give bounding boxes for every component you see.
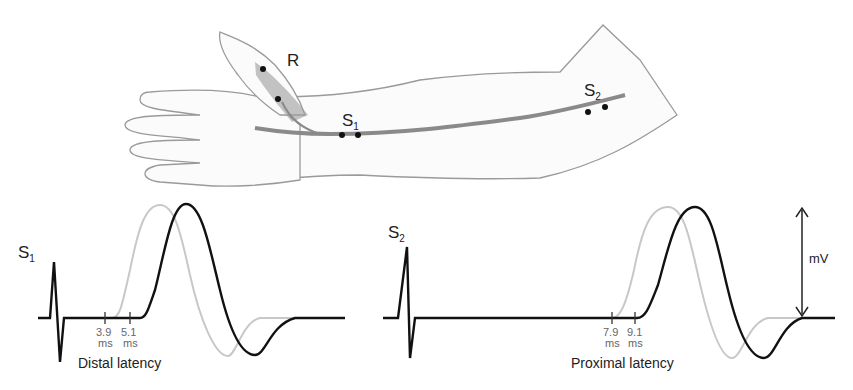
recording-electrode-1: [260, 66, 266, 72]
proximal-trace-panel: S2 7.9 ms 9.1 ms Proximal latency mV: [383, 207, 835, 371]
proximal-tick1-unit: ms: [605, 337, 620, 349]
distal-tick2-unit: ms: [123, 337, 138, 349]
recording-electrode-2: [275, 96, 281, 102]
stim2-electrode-2: [602, 104, 608, 110]
amplitude-label: mV: [809, 251, 829, 266]
stim1-electrode-2: [355, 132, 361, 138]
proximal-stim-label: S2: [388, 223, 405, 244]
normal-response-trace: [112, 205, 345, 356]
arm-outline: [235, 25, 677, 180]
distal-trace-panel: S1 3.9 ms 5.1 ms Distal latency: [18, 204, 345, 371]
arm-illustration: [125, 25, 677, 186]
nerve-conduction-diagram: R S1 S2 S1 3.9 ms 5.1 ms Distal latency …: [0, 0, 853, 390]
proximal-tick2-unit: ms: [628, 337, 643, 349]
stim1-electrode-1: [339, 132, 345, 138]
distal-latency-caption: Distal latency: [78, 355, 161, 371]
distal-stim-label: S1: [18, 243, 35, 264]
proximal-latency-caption: Proximal latency: [571, 355, 674, 371]
stim2-electrode-1: [585, 109, 591, 115]
recording-label: R: [287, 51, 299, 70]
distal-tick1-unit: ms: [98, 337, 113, 349]
